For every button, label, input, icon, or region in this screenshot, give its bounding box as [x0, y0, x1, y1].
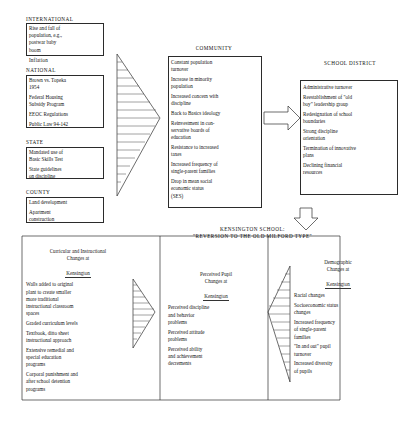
county-items: Land development Apartment construction	[29, 199, 103, 223]
list-item: Increase in minority population	[171, 76, 260, 90]
header-state: STATE	[26, 139, 106, 146]
list-item: State guidelines on discipline	[29, 166, 103, 180]
list-item: Redesignation of school boundaries	[303, 111, 397, 125]
list-item: Administrative turnover	[303, 84, 397, 91]
list-item: Declining financial resources	[303, 162, 397, 176]
community-items: Constant population turnover Increase in…	[171, 59, 260, 200]
header-school-district: SCHOOL DISTRICT	[302, 60, 398, 67]
state-items: Mandated use of Basic Skills Test State …	[29, 149, 103, 180]
funnel-arrow-demographic	[268, 266, 290, 382]
header-community: COMMUNITY	[168, 45, 260, 52]
header-kensington: KENSINGTON SCHOOL: "REVERSION TO THE OLD…	[160, 226, 345, 240]
arrow-community-to-district	[264, 106, 300, 130]
pupil-title-underline: Kensington	[203, 293, 229, 301]
pupil-title-text: Perceived Pupil Changes at	[200, 271, 232, 284]
list-item: Strong discipline orientation	[303, 128, 397, 142]
list-item: Reinvestment in con- servative boards of…	[171, 120, 260, 142]
list-item: Perceived ability and achievement decrem…	[168, 346, 264, 368]
pupil-title: Perceived Pupil Changes at Kensington	[168, 264, 264, 301]
list-item: Brown vs. Topeka 1954	[29, 77, 103, 91]
header-national: NATIONAL	[26, 67, 106, 74]
list-item: Drop in mean social economic status (SES…	[171, 178, 260, 200]
funnel-arrow-left	[117, 54, 160, 196]
header-international: INTERNATIONAL	[26, 16, 106, 23]
list-item: Perceived attitude problems	[168, 329, 264, 343]
curricular-block: Curricular and Instructional Changes at …	[26, 241, 130, 393]
list-item: Increased frequency of single-parent fam…	[171, 161, 260, 175]
demographic-title-text: Demographic Changes at	[324, 259, 352, 272]
list-item: "In and out" pupil turnover	[294, 343, 382, 357]
list-item: Public Law 94-142	[29, 121, 103, 128]
list-item: Increased diversity of pupils	[294, 360, 382, 374]
curricular-title-text: Curricular and Instructional Changes at	[50, 248, 107, 261]
demographic-block: Demographic Changes at Kensington Racial…	[294, 252, 382, 375]
list-item: Graded curriculum levels	[26, 320, 130, 327]
list-item: Apartment construction	[29, 209, 103, 223]
international-items: Rise and fall of population, e.g., postw…	[29, 25, 103, 54]
national-items: Brown vs. Topeka 1954 Federal Housing Su…	[29, 77, 103, 128]
list-item: Mandated use of Basic Skills Test	[29, 149, 103, 163]
list-item: Walls added to original plant to create …	[26, 281, 130, 317]
list-item: Back to Basics ideology	[171, 110, 260, 117]
curricular-title-underline: Kensington	[65, 270, 91, 278]
school-district-items: Administrative turnover Reestablishment …	[303, 84, 397, 176]
list-item: EEOC Regulations	[29, 111, 103, 118]
list-item: Perceived discipline and behavior proble…	[168, 304, 264, 326]
list-item: Constant population turnover	[171, 59, 260, 73]
list-item: Reestablishment of "old boy" leadership …	[303, 94, 397, 108]
list-item: Federal Housing Subsidy Program	[29, 94, 103, 108]
item-inflation: Inflation	[29, 57, 48, 63]
list-item: Socioeconomic status changes	[294, 302, 382, 316]
list-item: Extensive remedial and special education…	[26, 347, 130, 369]
diagram-canvas: INTERNATIONAL Rise and fall of populatio…	[0, 0, 404, 424]
demographic-title: Demographic Changes at Kensington	[294, 252, 382, 289]
list-item: Increased concern with discipline	[171, 93, 260, 107]
list-item: Resistance to increased taxes	[171, 144, 260, 158]
pupil-block: Perceived Pupil Changes at Kensington Pe…	[168, 264, 264, 367]
list-item: Termination of innovative plans	[303, 145, 397, 159]
list-item: Textbook, ditto sheet instructional appr…	[26, 330, 130, 344]
demographic-title-underline: Kensington	[325, 281, 351, 289]
list-item: Corporal punishment and after school det…	[26, 371, 130, 393]
funnel-arrow-curricular	[133, 279, 155, 348]
curricular-title: Curricular and Instructional Changes at …	[26, 241, 130, 278]
list-item: Racial changes	[294, 292, 382, 299]
header-county: COUNTY	[26, 189, 106, 196]
list-item: Rise and fall of population, e.g., postw…	[29, 25, 103, 54]
list-item: Land development	[29, 199, 103, 206]
list-item: Increased frequency of single-parent fam…	[294, 319, 382, 341]
